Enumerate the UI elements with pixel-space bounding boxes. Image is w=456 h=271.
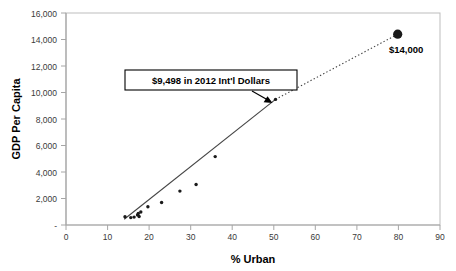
y-tick-label: 4,000	[36, 168, 58, 178]
y-axis-ticks	[61, 13, 66, 225]
y-tick-label: 12,000	[31, 62, 57, 72]
y-tick-label: 10,000	[31, 88, 57, 98]
scatter-chart: - 2,000 4,000 6,000 8,000 10,000 12,000 …	[0, 0, 456, 271]
x-tick-label: 90	[435, 232, 445, 242]
y-axis-title: GDP Per Capita	[10, 78, 22, 160]
data-point	[178, 189, 181, 192]
data-point	[146, 205, 149, 208]
annotation-text: $9,498 in 2012 Int'l Dollars	[152, 75, 270, 86]
x-axis-ticks	[66, 225, 440, 230]
x-tick-label: 40	[227, 232, 237, 242]
y-tick-label: 16,000	[31, 9, 57, 19]
data-point	[194, 183, 197, 186]
y-tick-label: 2,000	[36, 194, 58, 204]
x-tick-label: 80	[394, 232, 404, 242]
data-point	[132, 215, 135, 218]
x-tick-label: 50	[269, 232, 279, 242]
data-point	[139, 210, 142, 213]
x-tick-label: 20	[144, 232, 154, 242]
data-point	[123, 215, 126, 218]
data-point	[214, 155, 217, 158]
y-tick-label: 14,000	[31, 35, 57, 45]
x-tick-label: 60	[311, 232, 321, 242]
highlighted-point-label: $14,000	[389, 44, 423, 55]
x-axis-title: % Urban	[231, 253, 276, 265]
x-tick-label: 30	[186, 232, 196, 242]
y-tick-label: -	[54, 221, 57, 231]
y-tick-label: 8,000	[36, 115, 58, 125]
data-point	[137, 215, 140, 218]
y-axis-tick-labels: - 2,000 4,000 6,000 8,000 10,000 12,000 …	[31, 9, 57, 231]
x-axis-tick-labels: 0 10 20 30 40 50 60 70 80 90	[64, 232, 445, 242]
data-point	[274, 98, 277, 101]
y-tick-label: 6,000	[36, 141, 58, 151]
highlighted-data-point	[393, 30, 402, 39]
x-tick-label: 0	[64, 232, 69, 242]
data-point	[160, 201, 163, 204]
plot-frame	[66, 13, 440, 225]
data-point	[129, 216, 132, 219]
x-tick-label: 70	[352, 232, 362, 242]
chart-container: - 2,000 4,000 6,000 8,000 10,000 12,000 …	[0, 0, 456, 271]
x-tick-label: 10	[103, 232, 113, 242]
